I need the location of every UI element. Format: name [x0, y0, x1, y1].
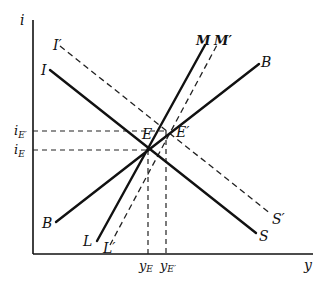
label-i-prime: I′: [52, 37, 63, 53]
label-m: M: [195, 33, 211, 48]
tick-i-e: iE: [14, 142, 25, 159]
label-s: S: [259, 228, 269, 244]
label-m-prime: M′: [213, 33, 232, 48]
label-s-prime: S′: [272, 211, 286, 227]
x-axis-label: y: [303, 257, 313, 273]
b-curve: [56, 64, 259, 222]
label-i: I: [40, 62, 47, 78]
label-e: E: [141, 126, 152, 142]
tick-y-e: yE: [138, 258, 153, 274]
islm-bp-diagram: i y I′ I M M′ B B L L′ S S′ E E′ iE′ iE …: [0, 0, 328, 286]
i-s-curve: [50, 70, 256, 233]
label-l: L: [82, 233, 92, 249]
tick-y-e-prime: yE′: [159, 258, 176, 274]
label-b-lower: B: [41, 215, 52, 231]
label-l-prime: L′: [102, 240, 116, 256]
label-e-prime: E′: [175, 124, 190, 140]
y-axis-label: i: [20, 12, 24, 28]
tick-i-e-prime: iE′: [14, 123, 27, 140]
l-m-curve: [97, 45, 205, 241]
label-b-upper: B: [260, 54, 271, 70]
l-prime-m-prime-curve: [110, 45, 217, 245]
